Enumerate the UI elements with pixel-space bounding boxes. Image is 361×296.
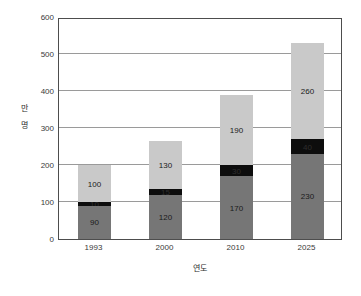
x-axis-tick-label: 2000 — [156, 243, 174, 252]
bar-group[interactable]: 23040260 — [291, 17, 324, 239]
x-axis-tick-labels: 1993200020102025 — [58, 243, 342, 257]
bar-value-label: 230 — [291, 192, 324, 201]
y-axis-tick-label: 600 — [28, 14, 54, 22]
bar-segment[interactable]: 30 — [220, 165, 253, 176]
y-axis-tick-label: 200 — [28, 162, 54, 170]
y-axis-tick-label: 400 — [28, 88, 54, 96]
y-axis-tick-labels: 0100200300400500600 — [28, 18, 54, 240]
y-axis-tick-label: 100 — [28, 199, 54, 207]
bar-segment[interactable]: 10 — [78, 202, 111, 206]
bar-segment[interactable]: 260 — [291, 43, 324, 139]
y-axis-tick-label: 300 — [28, 125, 54, 133]
x-axis-tick-label: 1993 — [85, 243, 103, 252]
x-axis-tick-label: 2025 — [298, 243, 316, 252]
bar-value-label: 40 — [291, 142, 324, 151]
bar-segment[interactable]: 120 — [149, 195, 182, 239]
plot-area: 9010100120151301703019023040260 — [58, 18, 342, 240]
bar-segment[interactable]: 230 — [291, 154, 324, 239]
bar-group[interactable]: 12015130 — [149, 17, 182, 239]
bar-segment[interactable]: 100 — [78, 165, 111, 202]
y-axis-tick-label: 500 — [28, 51, 54, 59]
bar-value-label: 15 — [149, 189, 182, 195]
bar-segment[interactable]: 15 — [149, 189, 182, 195]
bar-value-label: 10 — [78, 202, 111, 206]
bar-segment[interactable]: 40 — [291, 139, 324, 154]
bar-value-label: 100 — [78, 179, 111, 188]
x-axis-tick-label: 2010 — [227, 243, 245, 252]
bar-chart: 만 명 0100200300400500600 9010100120151301… — [0, 0, 361, 296]
bars-layer: 9010100120151301703019023040260 — [59, 19, 341, 239]
bar-segment[interactable]: 170 — [220, 176, 253, 239]
bar-value-label: 130 — [149, 161, 182, 170]
bar-value-label: 30 — [220, 166, 253, 175]
bar-value-label: 260 — [291, 87, 324, 96]
bar-group[interactable]: 17030190 — [220, 17, 253, 239]
bar-segment[interactable]: 130 — [149, 141, 182, 189]
bar-value-label: 170 — [220, 203, 253, 212]
bar-segment[interactable]: 190 — [220, 95, 253, 165]
y-axis-title: 만 명 — [14, 104, 28, 129]
bar-segment[interactable]: 90 — [78, 206, 111, 239]
bar-value-label: 190 — [220, 125, 253, 134]
x-axis-title: 연도 — [58, 264, 342, 274]
bar-group[interactable]: 9010100 — [78, 17, 111, 239]
y-axis-tick-label: 0 — [28, 236, 54, 244]
bar-value-label: 90 — [78, 218, 111, 227]
bar-value-label: 120 — [149, 212, 182, 221]
